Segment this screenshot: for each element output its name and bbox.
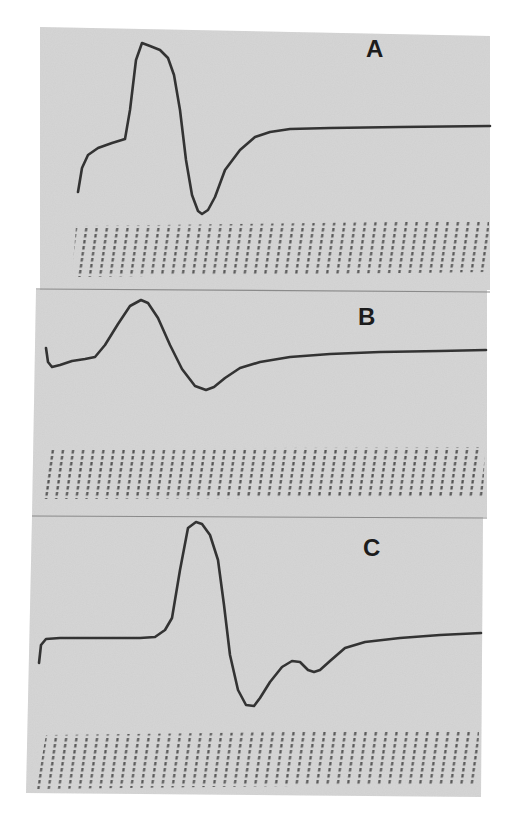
paper — [26, 27, 490, 797]
panel-label-c: C — [363, 534, 380, 561]
timing-marks-a — [72, 221, 489, 277]
timing-marks-c — [36, 730, 479, 789]
oscillograph-figure: A B C — [0, 0, 509, 821]
panel-label-b: B — [358, 303, 375, 330]
timing-marks-b — [38, 447, 485, 499]
paper-grain — [26, 27, 490, 797]
panel-label-a: A — [366, 35, 383, 62]
